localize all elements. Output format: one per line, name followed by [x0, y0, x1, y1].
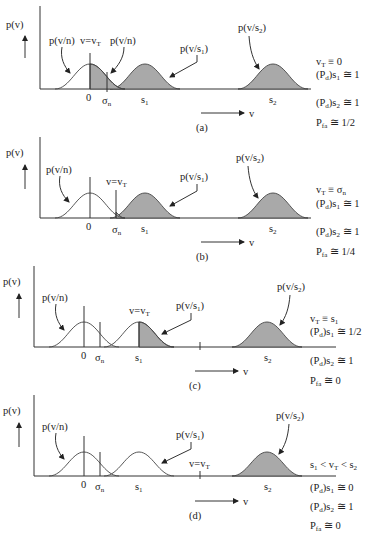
detection-threshold-diagram: p(v) 0 σn s1 s2 p(v/n) v=vT p(v/n) p(v/s…	[0, 0, 366, 538]
pointer-arrow-icon	[248, 166, 258, 198]
noise-curve-label-right: p(v/n)	[110, 35, 136, 47]
s1-curve-label: p(v/s1)	[180, 171, 209, 184]
threshold-label: v=vT	[80, 35, 101, 48]
pointer-arrow-icon	[280, 295, 290, 325]
svg-text:(Pd)s1 ≅ 1/2: (Pd)s1 ≅ 1/2	[310, 326, 362, 339]
tick-s2: s2	[264, 481, 272, 494]
tick-s1: s1	[135, 481, 143, 494]
svg-text:Pfa ≅ 0: Pfa ≅ 0	[310, 375, 341, 388]
svg-text:(Pd)s1 ≅ 0: (Pd)s1 ≅ 0	[310, 482, 353, 495]
tick-sigma-n: σn	[95, 481, 105, 494]
svg-text:(Pd)s2 ≅ 1: (Pd)s2 ≅ 1	[310, 355, 353, 368]
tick-s1: s1	[141, 223, 149, 236]
panel-conditions: s1 < vT < s2 (Pd)s1 ≅ 0 (Pd)s2 ≅ 1 Pfa ≅…	[310, 459, 358, 533]
noise-curve-label: p(v/n)	[42, 292, 68, 304]
panel-conditions: vT ≡ s1 (Pd)s1 ≅ 1/2 (Pd)s2 ≅ 1 Pfa ≅ 0	[310, 313, 362, 388]
pointer-arrow-icon	[111, 47, 124, 73]
s1-curve-label: p(v/s1)	[176, 429, 205, 442]
svg-text:Pfa ≅ 1/4: Pfa ≅ 1/4	[316, 246, 356, 259]
pointer-arrow-icon	[162, 442, 191, 463]
tick-s2: s2	[264, 352, 272, 365]
panel-conditions: vT ≡ 0 (Pd)s1 ≅ 1 (Pd)s2 ≅ 1 Pfa ≅ 1/2	[316, 56, 359, 130]
panel-a: p(v) 0 σn s1 s2 p(v/n) v=vT p(v/n) p(v/s…	[6, 6, 359, 134]
s1-detection-area	[139, 322, 174, 347]
pointer-arrow-icon	[59, 176, 69, 202]
s1-distribution-curve	[110, 64, 180, 89]
panel-caption: (b)	[196, 251, 209, 263]
svg-text:s1 < vT < s2: s1 < vT < s2	[310, 459, 358, 472]
pointer-arrow-icon	[162, 313, 191, 334]
svg-text:Pfa ≅ 1/2: Pfa ≅ 1/2	[316, 117, 355, 130]
s2-distribution-curve	[238, 64, 308, 89]
tick-sigma-n: σn	[102, 95, 112, 108]
panel-d: p(v) 0 σn s1 s2 p(v/n) v=vT p(v/s1) p(v/…	[3, 395, 358, 533]
y-axis-label: p(v)	[6, 19, 24, 31]
x-axis-label: v	[243, 496, 249, 507]
panel-conditions: vT ≡ σn (Pd)s1 ≅ 1 (Pd)s2 ≅ 1 Pfa ≅ 1/4	[316, 184, 359, 259]
panel-caption: (c)	[189, 380, 201, 392]
x-axis-label: v	[243, 366, 249, 377]
svg-text:vT ≡ s1: vT ≡ s1	[310, 313, 339, 326]
pointer-arrow-icon	[170, 55, 197, 77]
tick-sigma-n: σn	[112, 224, 122, 237]
tick-zero: 0	[81, 350, 86, 361]
tick-s2: s2	[269, 94, 277, 107]
pointer-arrow-icon	[279, 424, 289, 454]
tick-s1: s1	[135, 352, 143, 365]
threshold-label: v=vT	[129, 305, 150, 318]
s1-curve-label: p(v/s1)	[176, 300, 205, 313]
svg-text:Pfa ≅ 0: Pfa ≅ 0	[310, 520, 341, 533]
pointer-arrow-icon	[170, 184, 197, 206]
noise-curve-label: p(v/n)	[42, 421, 68, 433]
svg-text:(Pd)s2 ≅ 1: (Pd)s2 ≅ 1	[310, 501, 353, 514]
tick-zero: 0	[81, 479, 86, 490]
tick-s2: s2	[269, 223, 277, 236]
noise-curve-label: p(v/n)	[46, 164, 72, 176]
svg-text:vT ≡ 0: vT ≡ 0	[316, 56, 342, 69]
threshold-label: v=vT	[106, 176, 127, 189]
svg-text:(Pd)s1 ≅ 1: (Pd)s1 ≅ 1	[316, 69, 359, 82]
panel-caption: (a)	[196, 122, 208, 134]
panel-b: p(v) 0 σn s1 s2 p(v/n) v=vT p(v/s1) p(v/…	[6, 137, 359, 263]
pointer-arrow-icon	[249, 36, 259, 69]
s2-curve-label: p(v/s2)	[238, 22, 267, 35]
y-axis-label: p(v)	[3, 276, 21, 288]
svg-text:(Pd)s2 ≅ 1: (Pd)s2 ≅ 1	[316, 226, 359, 239]
s2-curve-label: p(v/s2)	[236, 152, 265, 165]
svg-text:(Pd)s2 ≅ 1: (Pd)s2 ≅ 1	[316, 97, 359, 110]
s1-distribution-curve	[110, 193, 180, 218]
pointer-arrow-icon	[55, 433, 64, 459]
svg-text:(Pd)s1 ≅ 1: (Pd)s1 ≅ 1	[316, 198, 359, 211]
threshold-label: v=vT	[189, 458, 210, 471]
x-axis-label: v	[249, 108, 255, 119]
pointer-arrow-icon	[55, 304, 64, 330]
tick-sigma-n: σn	[95, 352, 105, 365]
x-axis-label: v	[249, 237, 255, 248]
y-axis-label: p(v)	[6, 147, 24, 159]
tick-zero: 0	[86, 221, 91, 232]
panel-c: p(v) 0 σn s1 s2 p(v/n) v=vT p(v/s1) p(v/…	[3, 266, 362, 392]
tick-s1: s1	[141, 94, 149, 107]
s2-distribution-curve	[238, 193, 308, 218]
noise-curve-label-left: p(v/n)	[49, 35, 75, 47]
s2-distribution-curve	[232, 452, 302, 476]
y-axis-label: p(v)	[3, 405, 21, 417]
pointer-arrow-icon	[61, 47, 70, 73]
svg-text:vT ≡ σn: vT ≡ σn	[316, 184, 346, 197]
panel-caption: (d)	[189, 510, 202, 522]
tick-zero: 0	[86, 92, 91, 103]
s2-distribution-curve	[232, 322, 302, 347]
s1-distribution-curve	[104, 452, 174, 476]
s2-curve-label: p(v/s2)	[277, 281, 306, 294]
s2-curve-label: p(v/s2)	[276, 410, 305, 423]
s1-curve-label: p(v/s1)	[180, 43, 209, 56]
